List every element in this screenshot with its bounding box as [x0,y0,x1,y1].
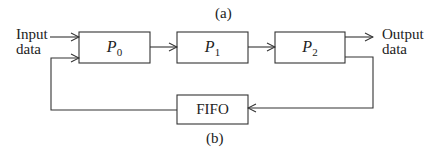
output-label-line1: Output [382,27,424,42]
caption-a: (a) [215,6,232,21]
input-data-label: Input data [16,27,48,57]
processor-label-p1: P1 [177,38,248,58]
input-label-line1: Input [16,27,48,42]
processor-label-p2: P2 [275,38,345,58]
caption-b: (b) [206,131,224,146]
fifo-label: FIFO [177,101,248,118]
output-data-label: Output data [382,27,424,57]
feedback-fifo-to-p0 [51,58,177,110]
output-label-line2: data [382,42,424,57]
processor-label-p0: P0 [79,38,150,58]
input-label-line2: data [16,42,48,57]
feedback-p2-to-fifo [248,57,373,108]
